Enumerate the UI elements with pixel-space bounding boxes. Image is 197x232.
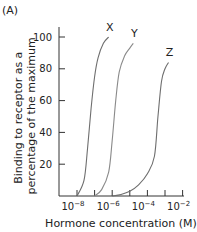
curve-z [112,62,168,196]
curve-label-z: Z [166,46,174,59]
y-tick-label: 100 [33,32,52,43]
y-tick-label: 20 [39,159,52,170]
curve-x [77,37,109,196]
dose-response-chart: (A) Binding to receptor as a percentage … [0,0,197,232]
y-tick-label: 80 [39,63,52,74]
curve-y [95,43,134,196]
x-tick-label: 10−6 [97,200,121,212]
y-tick-label: 40 [39,127,52,138]
curve-label-x: X [106,21,114,34]
panel-label: (A) [2,4,18,17]
x-axis-label: Hormone concentration (M) [45,217,197,230]
curve-label-y: Y [130,27,138,40]
curves: XYZ [77,21,174,196]
x-tick-label: 10−8 [61,200,84,212]
x-tick-label: 10−2 [167,200,190,212]
y-tick-label: 60 [39,95,52,106]
x-tick-label: 10−4 [132,200,156,212]
y-axis-label: Binding to receptor as a percentage of t… [12,37,38,194]
